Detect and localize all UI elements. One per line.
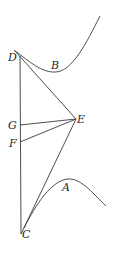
- segment-dc: [20, 56, 21, 234]
- label-b: B: [50, 59, 59, 72]
- label-c: C: [22, 228, 31, 241]
- label-e: E: [76, 113, 85, 126]
- label-a: A: [61, 181, 70, 194]
- label-f: F: [8, 137, 17, 150]
- label-d: D: [7, 51, 17, 64]
- label-g: G: [8, 119, 17, 132]
- geometry-diagram: D B G E F A C: [0, 0, 113, 256]
- segment-de: [15, 51, 76, 119]
- segment-ce: [21, 119, 76, 234]
